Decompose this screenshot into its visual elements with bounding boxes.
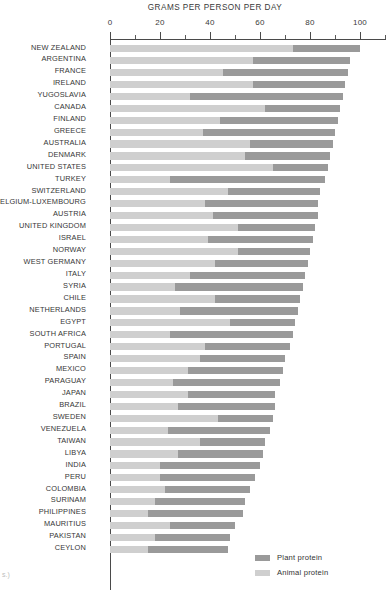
bar-segment-animal-protein	[110, 343, 205, 350]
bar-segment-plant-protein	[148, 546, 228, 553]
country-label: GREECE	[0, 127, 86, 135]
bar-segment-plant-protein	[165, 486, 250, 493]
bar-segment-animal-protein	[110, 117, 220, 124]
chart-bar-row: DENMARK	[0, 151, 390, 163]
country-label: WEST GERMANY	[0, 258, 86, 266]
country-label: SOUTH AFRICA	[0, 330, 86, 338]
bar-segment-animal-protein	[110, 200, 205, 207]
bar-segment-animal-protein	[110, 152, 245, 159]
country-label: BRAZIL	[0, 401, 86, 409]
bar-segment-animal-protein	[110, 403, 178, 410]
bar-segment-plant-protein	[188, 367, 283, 374]
bar-segment-plant-protein	[213, 212, 318, 219]
bar-segment-animal-protein	[110, 212, 213, 219]
chart-bar-row: SYRIA	[0, 282, 390, 294]
chart-bar-row: EGYPT	[0, 318, 390, 330]
country-label: AUSTRALIA	[0, 139, 86, 147]
bar-segment-animal-protein	[110, 176, 170, 183]
bar-segment-animal-protein	[110, 415, 218, 422]
bar-segment-plant-protein	[180, 307, 298, 314]
bar-segment-animal-protein	[110, 331, 170, 338]
chart-bar-row: PERU	[0, 473, 390, 485]
bar-segment-animal-protein	[110, 57, 253, 64]
chart-bar-row: AUSTRALIA	[0, 139, 390, 151]
bar-segment-animal-protein	[110, 355, 200, 362]
chart-bar-row: WEST GERMANY	[0, 258, 390, 270]
bar-segment-animal-protein	[110, 367, 188, 374]
bar-segment-animal-protein	[110, 188, 228, 195]
bar-segment-plant-protein	[170, 331, 293, 338]
country-label: ARGENTINA	[0, 55, 86, 63]
bar-segment-plant-protein	[293, 45, 361, 52]
bar-segment-plant-protein	[160, 474, 255, 481]
bar-segment-animal-protein	[110, 164, 273, 171]
country-label: CANADA	[0, 103, 86, 111]
bar-segment-animal-protein	[110, 45, 293, 52]
country-label: IRELAND	[0, 79, 86, 87]
bar-segment-animal-protein	[110, 272, 190, 279]
chart-bar-row: INDIA	[0, 461, 390, 473]
bar-segment-animal-protein	[110, 462, 160, 469]
bar-segment-plant-protein	[253, 57, 351, 64]
bar-segment-animal-protein	[110, 69, 223, 76]
bar-segment-plant-protein	[190, 272, 305, 279]
bar-segment-animal-protein	[110, 248, 238, 255]
legend-label: Animal protein	[277, 566, 328, 580]
bar-segment-animal-protein	[110, 93, 190, 100]
bar-segment-plant-protein	[160, 462, 260, 469]
bar-segment-animal-protein	[110, 391, 188, 398]
bar-segment-animal-protein	[110, 474, 160, 481]
country-label: DENMARK	[0, 151, 86, 159]
country-label: ISRAEL	[0, 234, 86, 242]
bar-segment-plant-protein	[220, 117, 338, 124]
bar-segment-animal-protein	[110, 260, 215, 267]
country-label: FRANCE	[0, 67, 86, 75]
country-label: NORWAY	[0, 246, 86, 254]
country-label: TAIWAN	[0, 437, 86, 445]
bar-segment-animal-protein	[110, 307, 180, 314]
bar-segment-plant-protein	[200, 438, 265, 445]
bar-segment-animal-protein	[110, 379, 173, 386]
country-label: TURKEY	[0, 175, 86, 183]
country-label: YUGOSLAVIA	[0, 91, 86, 99]
bar-segment-plant-protein	[178, 450, 263, 457]
country-label: SURINAM	[0, 496, 86, 504]
bar-segment-plant-protein	[228, 188, 321, 195]
chart-bar-row: TURKEY	[0, 175, 390, 187]
chart-bar-row: CHILE	[0, 294, 390, 306]
country-label: VENEZUELA	[0, 425, 86, 433]
bar-segment-animal-protein	[110, 295, 215, 302]
chart-bar-row: PORTUGAL	[0, 342, 390, 354]
bar-segment-plant-protein	[223, 69, 348, 76]
country-label: SWEDEN	[0, 413, 86, 421]
bar-segment-plant-protein	[170, 176, 325, 183]
bar-segment-animal-protein	[110, 224, 238, 231]
bar-segment-plant-protein	[178, 403, 276, 410]
bar-segment-plant-protein	[265, 105, 340, 112]
bar-segment-plant-protein	[253, 81, 346, 88]
bar-segment-plant-protein	[190, 93, 343, 100]
country-label: INDIA	[0, 461, 86, 469]
country-label: UNITED KINGDOM	[0, 222, 86, 230]
bar-segment-plant-protein	[215, 295, 300, 302]
country-label: PHILIPPINES	[0, 508, 86, 516]
bar-segment-animal-protein	[110, 534, 155, 541]
bar-segment-plant-protein	[200, 355, 285, 362]
country-label: AUSTRIA	[0, 210, 86, 218]
bar-segment-plant-protein	[203, 129, 336, 136]
bar-segment-plant-protein	[188, 391, 276, 398]
chart-bar-row: PARAGUAY	[0, 377, 390, 389]
bar-segment-animal-protein	[110, 129, 203, 136]
country-label: SWITZERLAND	[0, 187, 86, 195]
chart-bar-row: NETHERLANDS	[0, 306, 390, 318]
chart-bar-row: ITALY	[0, 270, 390, 282]
country-label: NEW ZEALAND	[0, 44, 86, 52]
bar-segment-plant-protein	[155, 498, 245, 505]
corner-note: s.)	[2, 571, 10, 578]
bar-segment-animal-protein	[110, 140, 250, 147]
country-label: MEXICO	[0, 365, 86, 373]
legend-swatch	[255, 570, 270, 576]
bar-segment-animal-protein	[110, 283, 175, 290]
bar-segment-plant-protein	[238, 248, 311, 255]
bar-segment-animal-protein	[110, 522, 170, 529]
